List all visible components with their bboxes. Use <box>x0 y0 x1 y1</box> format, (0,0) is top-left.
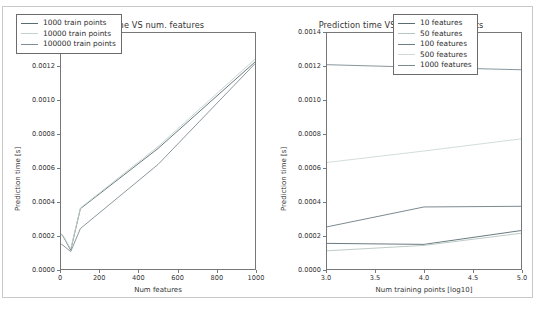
plot-area-left <box>60 32 256 270</box>
y-tick-label: 0.0012 <box>274 62 321 70</box>
legend-item-label: 1000 features <box>420 60 472 71</box>
y-tick-label: 0.0004 <box>8 198 55 206</box>
y-tick-label: 0.0002 <box>8 232 55 240</box>
y-tick-mark <box>323 168 326 169</box>
x-tick-mark <box>60 270 61 273</box>
x-tick-label: 3.0 <box>311 274 341 282</box>
figure-canvas: Prediction time VS num. features Predict… <box>0 0 538 311</box>
y-tick-mark <box>57 134 60 135</box>
legend-color-swatch <box>21 23 38 24</box>
legend-color-swatch <box>398 23 415 24</box>
x-axis-label-right: Num training points [log10] <box>326 286 522 294</box>
legend-item[interactable]: 500 features <box>398 50 472 61</box>
x-tick-label: 3.5 <box>360 274 390 282</box>
legend-item-label: 50 features <box>420 29 462 40</box>
legend-item-label: 500 features <box>420 50 467 61</box>
x-tick-label: 800 <box>202 274 232 282</box>
y-tick-label: 0.0002 <box>274 232 321 240</box>
legend-item[interactable]: 50 features <box>398 29 472 40</box>
x-tick-mark <box>326 270 327 273</box>
x-tick-mark <box>217 270 218 273</box>
legend-color-swatch <box>398 33 415 34</box>
x-tick-mark <box>522 270 523 273</box>
y-tick-label: 0.0006 <box>8 164 55 172</box>
x-tick-label: 200 <box>84 274 114 282</box>
y-tick-label: 0.0000 <box>8 266 55 274</box>
y-tick-mark <box>323 100 326 101</box>
legend-left: 1000 train points10000 train points10000… <box>16 14 122 54</box>
x-tick-mark <box>375 270 376 273</box>
y-tick-mark <box>57 100 60 101</box>
y-tick-mark <box>323 66 326 67</box>
y-tick-mark <box>57 202 60 203</box>
legend-color-swatch <box>21 44 38 45</box>
legend-color-swatch <box>398 44 415 45</box>
legend-color-swatch <box>21 33 38 34</box>
series-line <box>327 233 521 251</box>
legend-item-label: 10 features <box>420 18 462 29</box>
y-tick-label: 0.0012 <box>8 62 55 70</box>
x-tick-label: 5.0 <box>507 274 537 282</box>
y-tick-mark <box>57 168 60 169</box>
legend-item[interactable]: 10 features <box>398 18 472 29</box>
y-tick-label: 0.0010 <box>8 96 55 104</box>
legend-color-swatch <box>398 54 415 55</box>
x-tick-label: 1000 <box>241 274 271 282</box>
y-tick-mark <box>323 32 326 33</box>
legend-right: 10 features50 features100 features500 fe… <box>393 14 478 75</box>
y-tick-label: 0.0000 <box>274 266 321 274</box>
y-tick-label: 0.0006 <box>274 164 321 172</box>
y-tick-mark <box>323 202 326 203</box>
x-tick-label: 0 <box>45 274 75 282</box>
y-tick-label: 0.0008 <box>8 130 55 138</box>
legend-item[interactable]: 100 features <box>398 39 472 50</box>
y-tick-label: 0.0004 <box>274 198 321 206</box>
legend-color-swatch <box>398 65 415 66</box>
x-tick-label: 4.5 <box>458 274 488 282</box>
legend-item-label: 100000 train points <box>43 39 116 50</box>
y-tick-label: 0.0008 <box>274 130 321 138</box>
x-tick-mark <box>256 270 257 273</box>
x-tick-mark <box>424 270 425 273</box>
y-tick-mark <box>57 236 60 237</box>
x-tick-mark <box>473 270 474 273</box>
legend-item-label: 1000 train points <box>43 18 106 29</box>
series-line <box>327 139 521 163</box>
legend-item[interactable]: 10000 train points <box>21 29 116 40</box>
y-tick-mark <box>323 134 326 135</box>
x-tick-mark <box>99 270 100 273</box>
x-tick-mark <box>138 270 139 273</box>
y-tick-mark <box>323 236 326 237</box>
legend-item-label: 100 features <box>420 39 467 50</box>
series-line <box>327 231 521 245</box>
x-tick-label: 600 <box>163 274 193 282</box>
y-tick-label: 0.0010 <box>274 96 321 104</box>
legend-item-label: 10000 train points <box>43 29 111 40</box>
y-tick-mark <box>57 66 60 67</box>
x-tick-label: 400 <box>123 274 153 282</box>
series-line <box>61 64 255 252</box>
legend-item[interactable]: 1000 train points <box>21 18 116 29</box>
chart-panel-right: Prediction time VS num. training points … <box>268 6 534 298</box>
legend-item[interactable]: 1000 features <box>398 60 472 71</box>
y-tick-label: 0.0014 <box>274 28 321 36</box>
x-tick-mark <box>178 270 179 273</box>
legend-item[interactable]: 100000 train points <box>21 39 116 50</box>
series-line <box>61 62 255 250</box>
chart-panel-left: Prediction time VS num. features Predict… <box>2 6 268 298</box>
line-chart-left <box>61 33 255 269</box>
x-axis-label-left: Num features <box>60 286 256 294</box>
x-tick-label: 4.0 <box>409 274 439 282</box>
series-line <box>327 206 521 227</box>
